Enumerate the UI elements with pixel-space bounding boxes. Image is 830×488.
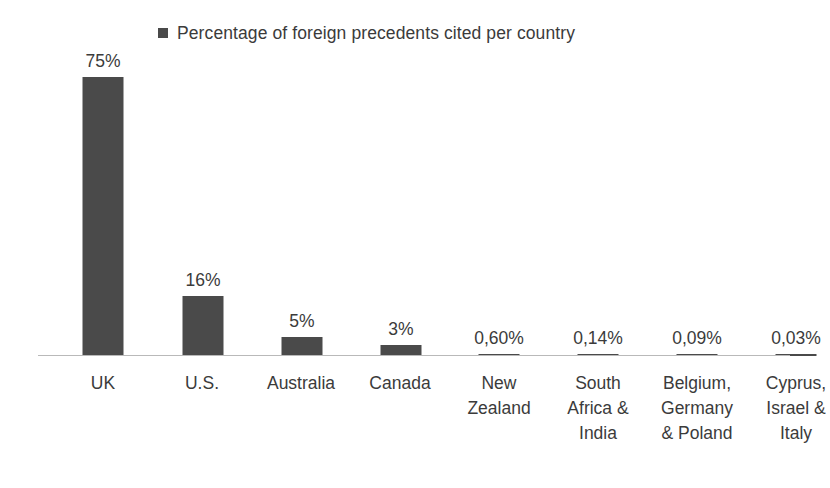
bar-value-label: 0,03%: [771, 328, 821, 348]
category-label-south-africa-india: South Africa & India: [548, 371, 648, 446]
bar-australia: [282, 337, 323, 356]
category-label-line: Zealand: [449, 396, 549, 421]
bar-column-us: 16%: [156, 58, 250, 356]
bar-column-south-africa-india: 0,14%: [551, 58, 645, 356]
category-label-new-zealand: New Zealand: [449, 371, 549, 421]
category-label-line: Germany: [647, 396, 747, 421]
category-label-line: Cyprus,: [746, 371, 830, 396]
bar-column-new-zealand: 0,60%: [452, 58, 546, 356]
bar-column-uk: 75%: [56, 58, 150, 356]
category-label-line: Africa &: [548, 396, 648, 421]
legend-label: Percentage of foreign precedents cited p…: [177, 23, 575, 43]
category-label-line: India: [548, 421, 648, 446]
category-label-line: U.S.: [152, 371, 252, 396]
bar-column-cyprus-israel-italy: 0,03%: [749, 58, 830, 356]
bar-value-label: 3%: [388, 319, 413, 339]
category-label-line: South: [548, 371, 648, 396]
bar-uk: [83, 77, 124, 356]
bar-value-label: 5%: [289, 311, 314, 331]
category-label-uk: UK: [53, 371, 153, 396]
category-label-us: U.S.: [152, 371, 252, 396]
category-label-cyprus-israel-italy: Cyprus, Israel & Italy: [746, 371, 830, 446]
bar-column-belgium-germany-poland: 0,09%: [650, 58, 744, 356]
category-label-line: Belgium,: [647, 371, 747, 396]
category-label-canada: Canada: [350, 371, 450, 396]
bar-value-label: 0,09%: [672, 328, 722, 348]
bar-us: [183, 296, 224, 356]
plot-area: 75% 16% 5% 3% 0,60%: [38, 58, 790, 356]
category-label-line: Canada: [350, 371, 450, 396]
bar-value-label: 75%: [85, 51, 120, 71]
category-label-line: Israel &: [746, 396, 830, 421]
bar-column-canada: 3%: [354, 58, 448, 356]
bar-value-label: 0,60%: [474, 328, 524, 348]
legend-swatch-icon: [158, 28, 168, 38]
category-axis-line: [38, 355, 790, 356]
category-label-australia: Australia: [251, 371, 351, 396]
category-label-line: New: [449, 371, 549, 396]
category-label-line: UK: [53, 371, 153, 396]
category-label-belgium-germany-poland: Belgium, Germany & Poland: [647, 371, 747, 446]
chart-legend: Percentage of foreign precedents cited p…: [158, 22, 575, 44]
bar-value-label: 0,14%: [573, 328, 623, 348]
category-label-line: Australia: [251, 371, 351, 396]
bar-value-label: 16%: [185, 270, 220, 290]
category-label-line: & Poland: [647, 421, 747, 446]
category-label-line: Italy: [746, 421, 830, 446]
category-axis-labels: UK U.S. Australia Canada New Zealand Sou…: [38, 371, 790, 481]
bar-column-australia: 5%: [255, 58, 349, 356]
